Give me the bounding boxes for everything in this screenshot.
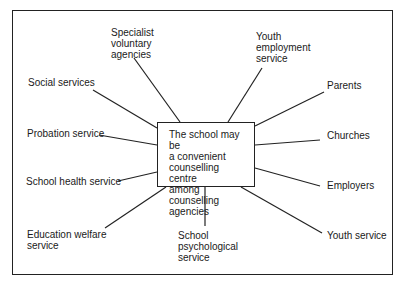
node-parents: Parents (327, 80, 361, 91)
connector-youth-employment-service (228, 68, 262, 122)
node-youth-employment-service: Youth employment service (256, 31, 310, 64)
center-node: The school may be a convenient counselli… (157, 122, 255, 187)
connector-probation-service (99, 135, 157, 145)
connector-churches (255, 140, 320, 145)
node-employers: Employers (327, 180, 374, 191)
connector-youth-service (241, 187, 322, 233)
node-probation-service: Probation service (27, 128, 104, 139)
connector-school-health-service (118, 172, 157, 181)
connector-parents (255, 92, 324, 126)
node-youth-service: Youth service (327, 230, 387, 241)
node-school-health-service: School health service (26, 176, 121, 187)
node-education-welfare-service: Education welfare service (27, 229, 107, 251)
node-social-services: Social services (28, 77, 95, 88)
node-churches: Churches (327, 130, 370, 141)
connector-specialist-voluntary-agencies (134, 58, 180, 122)
node-school-psychological-service: School psychological service (178, 230, 238, 263)
connector-education-welfare-service (105, 187, 166, 228)
connector-social-services (93, 90, 157, 128)
connector-employers (255, 168, 320, 186)
node-specialist-voluntary-agencies: Specialist voluntary agencies (111, 27, 154, 60)
